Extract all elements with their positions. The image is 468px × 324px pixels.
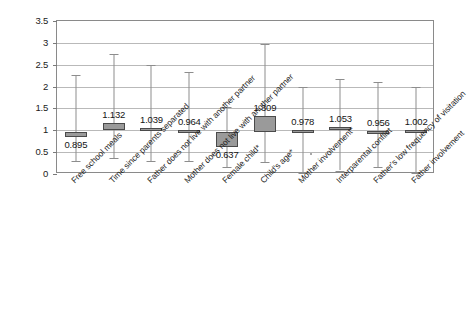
whisker-cap-upper [336,79,345,80]
whisker-cap-upper [185,72,194,73]
value-label: 1.132 [102,109,125,120]
box-plot-item: 0.895 [57,21,95,174]
y-axis-labels: 00.511.522.533.5 [0,20,54,173]
y-tick-label: 1 [43,124,48,135]
value-label: 0.978 [291,116,314,127]
plot-area: 0.8951.1321.0390.9640.6371.3090.9781.053… [56,20,434,173]
box [65,132,87,136]
whisker-line [340,79,341,170]
box [103,123,125,130]
stray-marker [310,153,312,155]
whisker-cap-lower [260,162,269,163]
whisker-cap-upper [374,82,383,83]
whisker-cap-upper [71,75,80,76]
box [292,130,314,133]
box [254,116,276,132]
value-label: 0.895 [65,139,88,150]
y-tick-label: 0.5 [35,146,48,157]
value-label: 1.039 [140,114,163,125]
y-tick-label: 1.5 [35,102,48,113]
whisker-cap-upper [260,44,269,45]
y-tick-label: 2.5 [35,58,48,69]
whisker-cap-upper [412,87,421,88]
whisker-cap-upper [147,65,156,66]
whisker-cap-lower [71,161,80,162]
value-label: 1.053 [329,113,352,124]
y-tick-label: 2 [43,80,48,91]
whisker-cap-lower [147,161,156,162]
whisker-cap-lower [185,161,194,162]
whisker-cap-upper [298,87,307,88]
x-axis-labels: Free school mealsTime since parents sepa… [0,176,452,316]
y-tick-label: 3 [43,36,48,47]
y-tick-mark [53,174,57,175]
y-tick-label: 3.5 [35,15,48,26]
whisker-cap-upper [109,54,118,55]
whisker-cap-lower [109,158,118,159]
